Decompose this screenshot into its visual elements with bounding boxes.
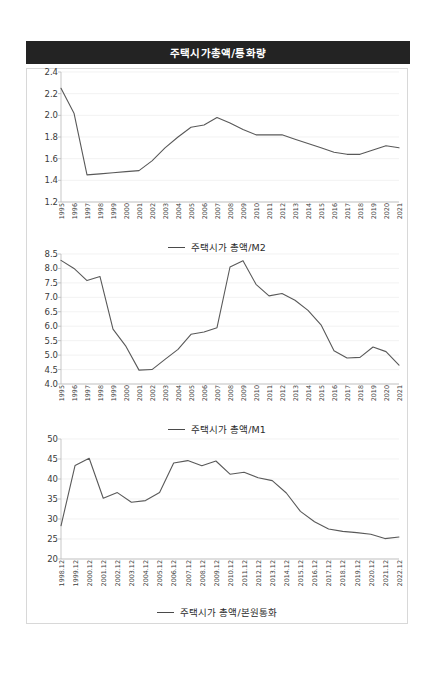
y-axis-labels-m1: 4.04.55.05.56.06.57.07.58.08.5 [27,254,61,384]
x-tick-label: 2011 [266,203,274,219]
x-tick-label: 2002 [149,385,157,401]
legend-m2: 주택시가 총액/M2 [27,240,407,254]
x-tick-label: 2014.12 [283,560,291,586]
x-tick-label: 2003.12 [128,560,136,586]
y-tick-label: 6.0 [44,321,58,331]
x-axis-labels-base-money: 1998.121999.122000.122001.122002.122003.… [27,560,407,604]
plot-m2 [61,72,399,202]
y-tick-label: 30 [47,514,58,524]
y-tick-label: 1.6 [44,154,58,164]
x-tick-label: 2009 [240,203,248,219]
x-tick-label: 2020.12 [368,560,376,586]
x-tick-label: 2010 [253,385,261,401]
x-tick-label: 2012 [279,203,287,219]
x-tick-label: 2004 [175,203,183,219]
x-tick-label: 1999 [110,203,118,219]
x-tick-label: 1998.12 [58,560,66,586]
y-tick-label: 50 [47,434,58,444]
x-tick-label: 2018 [357,385,365,401]
x-tick-label: 2000.12 [86,560,94,586]
y-tick-label: 45 [47,454,58,464]
x-tick-label: 2015 [318,203,326,219]
y-axis-labels-m2: 1.21.41.61.82.02.22.4 [27,72,61,202]
x-tick-label: 2022.12 [396,560,404,586]
y-tick-label: 2.4 [44,67,58,77]
x-axis-labels-m1: 1995199619971998199920002001200220032004… [27,385,407,421]
x-tick-label: 1997 [84,385,92,401]
x-tick-label: 2012 [279,385,287,401]
x-tick-label: 2007 [214,385,222,401]
y-tick-label: 2.2 [44,89,58,99]
x-tick-label: 2008.12 [199,560,207,586]
x-tick-label: 2013 [292,385,300,401]
x-tick-label: 2018 [357,203,365,219]
y-tick-label: 35 [47,494,58,504]
legend-label-base-money: 주택시가 총액/본원통화 [180,605,276,619]
x-tick-label: 2010.12 [227,560,235,586]
x-tick-label: 2014 [305,203,313,219]
x-tick-label: 2020 [383,385,391,401]
x-tick-label: 2015.12 [297,560,305,586]
y-tick-label: 5.5 [44,336,58,346]
y-axis-labels-base-money: 20253035404550 [27,439,61,559]
x-tick-label: 2002 [149,203,157,219]
x-tick-label: 2021 [396,203,404,219]
x-tick-label: 1995 [58,385,66,401]
page-title: 주택시가총액/통화량 [170,45,266,60]
x-tick-label: 2013 [292,203,300,219]
x-tick-label: 1997 [84,203,92,219]
x-tick-label: 2004.12 [142,560,150,586]
x-tick-label: 1996 [71,203,79,219]
x-tick-label: 1998 [97,385,105,401]
x-tick-label: 1995 [58,203,66,219]
x-tick-label: 2002.12 [114,560,122,586]
y-tick-label: 7.5 [44,278,58,288]
chart-block-m1: 4.04.55.05.56.06.57.07.58.08.5 199519961… [27,254,407,439]
x-tick-label: 2006 [201,203,209,219]
x-tick-label: 2001 [136,385,144,401]
x-tick-label: 2007.12 [185,560,193,586]
y-tick-label: 8.0 [44,263,58,273]
x-tick-label: 2015 [318,385,326,401]
x-tick-label: 2003 [162,203,170,219]
x-tick-label: 2013.12 [269,560,277,586]
x-tick-label: 2009 [240,385,248,401]
x-tick-label: 2005.12 [156,560,164,586]
x-tick-label: 2017 [344,385,352,401]
x-tick-label: 2018.12 [339,560,347,586]
x-tick-label: 2009.12 [213,560,221,586]
plot-wrap-m1: 4.04.55.05.56.06.57.07.58.08.5 [27,254,407,384]
x-tick-label: 2014 [305,385,313,401]
y-tick-label: 2.0 [44,110,58,120]
y-tick-label: 5.0 [44,350,58,360]
legend-m1: 주택시가 총액/M1 [27,422,407,436]
x-tick-label: 1999 [110,385,118,401]
x-tick-label: 2001.12 [100,560,108,586]
x-tick-label: 2016 [331,385,339,401]
x-tick-label: 2011 [266,385,274,401]
x-tick-label: 2008 [227,203,235,219]
plot-wrap-m2: 1.21.41.61.82.02.22.4 [27,72,407,202]
y-tick-label: 25 [47,534,58,544]
x-tick-label: 2005 [188,203,196,219]
chart-block-base-money: 20253035404550 1998.121999.122000.122001… [27,439,407,624]
x-tick-label: 2012.12 [255,560,263,586]
legend-label-m2: 주택시가 총액/M2 [191,240,265,254]
x-tick-label: 1996 [71,385,79,401]
charts-panel: 1.21.41.61.82.02.22.4 199519961997199819… [26,68,408,624]
x-tick-label: 2006.12 [170,560,178,586]
x-tick-label: 2008 [227,385,235,401]
x-tick-label: 2021 [396,385,404,401]
y-tick-label: 1.8 [44,132,58,142]
x-tick-label: 2017 [344,203,352,219]
x-tick-label: 2003 [162,385,170,401]
x-axis-labels-m2: 1995199619971998199920002001200220032004… [27,203,407,239]
legend-swatch-m2 [168,247,185,248]
legend-swatch-m1 [168,429,185,430]
line-chart-m2 [61,72,399,202]
y-tick-label: 4.5 [44,365,58,375]
x-tick-label: 2001 [136,203,144,219]
x-tick-label: 2020 [383,203,391,219]
legend-label-m1: 주택시가 총액/M1 [191,422,265,436]
x-tick-label: 2004 [175,385,183,401]
